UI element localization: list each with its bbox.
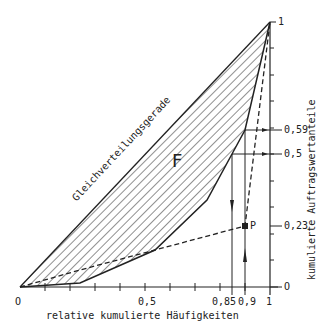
point-P xyxy=(242,223,248,229)
y-axis-title: kumulierte Auftragswertanteile xyxy=(306,99,317,280)
x-label-05: 0,5 xyxy=(138,296,156,307)
y-label-1: 1 xyxy=(278,16,284,27)
x-label-0: O xyxy=(15,296,21,307)
y-label-023: 0,23 xyxy=(284,220,308,231)
x-label-1: 1 xyxy=(266,296,272,307)
y-label-05: 0,5 xyxy=(284,148,302,159)
area-label: F xyxy=(172,150,182,171)
x-axis-title: relative kumulierte Häufigkeiten xyxy=(46,310,239,321)
y-label-0: O xyxy=(284,281,290,292)
point-label: P xyxy=(250,220,256,231)
lorenz-diagram xyxy=(0,0,328,330)
x-label-09: 0,9 xyxy=(238,296,256,307)
y-label-059: 0,59 xyxy=(284,124,308,135)
x-label-085: 0,85 xyxy=(212,296,236,307)
